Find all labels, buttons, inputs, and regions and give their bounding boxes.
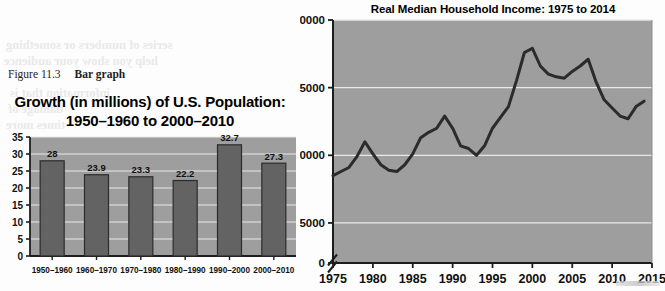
bar-y-tick-label: 25 <box>12 166 24 177</box>
bar-graph-panel: Figure 11.3Bar graph Growth (in millions… <box>0 0 312 291</box>
bar-category-label: 2000–2010 <box>253 266 294 275</box>
figure-caption: Figure 11.3Bar graph <box>8 68 125 80</box>
line-y-tick-label: 50000 <box>300 149 325 161</box>
line-y-tick-label: 45000 <box>300 217 325 229</box>
line-x-tick-label: 1975 <box>319 272 347 286</box>
bar-chart-title: Growth (in millions) of U.S. Population:… <box>0 92 300 130</box>
bar-y-tick-label: 5 <box>17 234 23 245</box>
bar <box>173 181 197 256</box>
line-x-tick-label: 1990 <box>439 272 467 286</box>
page-smudge <box>616 281 660 286</box>
bar-chart-title-line2: 1950–1960 to 2000–2010 <box>0 111 300 130</box>
bar <box>129 177 153 256</box>
line-chart: 4500050000550006000001975198019851990199… <box>300 14 665 291</box>
bar-category-label: 1970–1980 <box>120 266 161 275</box>
bar-category-label: 1960–1970 <box>76 266 117 275</box>
bar-category-label: 1950–1960 <box>32 266 73 275</box>
line-y-tick-label: 60000 <box>300 14 325 26</box>
line-x-tick-label: 2000 <box>518 272 546 286</box>
bar <box>85 175 109 256</box>
figure-number: Figure 11.3 <box>8 68 61 80</box>
line-chart-panel: Real Median Household Income: 1975 to 20… <box>300 0 665 291</box>
bar-chart-title-line1: Growth (in millions) of U.S. Population: <box>0 92 300 111</box>
line-chart-svg: 4500050000550006000001975198019851990199… <box>300 14 665 291</box>
bar-y-tick-label: 35 <box>12 132 24 143</box>
bar-chart: 05101520253035281950–196023.91960–197023… <box>0 132 305 282</box>
bar-y-tick-label: 0 <box>17 251 23 262</box>
line-zero-tick-label: 0 <box>319 257 325 269</box>
bar <box>218 145 242 256</box>
bar-value-label: 22.2 <box>176 168 195 179</box>
bar-category-label: 1980–1990 <box>165 266 206 275</box>
bar-value-label: 23.9 <box>87 162 106 173</box>
line-y-tick-label: 55000 <box>300 82 325 94</box>
bar-plot-background <box>30 137 296 256</box>
bar-chart-svg: 05101520253035281950–196023.91960–197023… <box>0 132 305 282</box>
bar-y-tick-label: 10 <box>12 217 24 228</box>
figure-label: Bar graph <box>75 68 126 80</box>
bar-value-label: 23.3 <box>132 164 151 175</box>
textbook-figure-page: series of numbers or something help you … <box>0 0 665 291</box>
bar-value-label: 27.3 <box>265 151 284 162</box>
bar-y-tick-label: 20 <box>12 183 24 194</box>
bar-category-label: 1990–2000 <box>209 266 250 275</box>
line-plot-background <box>333 20 652 263</box>
bar-y-tick-label: 15 <box>12 200 24 211</box>
line-x-tick-label: 2005 <box>558 272 586 286</box>
bar-y-tick-label: 30 <box>12 149 24 160</box>
line-x-tick-label: 1985 <box>399 272 427 286</box>
bar <box>40 161 64 256</box>
line-x-tick-label: 1995 <box>479 272 507 286</box>
bar-value-label: 28 <box>47 148 58 159</box>
bar <box>262 163 286 256</box>
bar-value-label: 32.7 <box>220 132 239 143</box>
line-x-tick-label: 1980 <box>359 272 387 286</box>
